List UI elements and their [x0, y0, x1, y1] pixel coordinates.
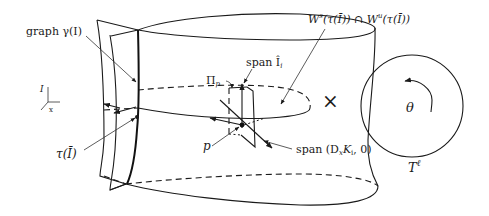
pi-p-pointer: [226, 81, 232, 88]
axis-indicator: I x: [39, 84, 60, 114]
plane-hidden-bottom: [229, 134, 241, 135]
pi-p-label: Πp: [206, 74, 221, 88]
point-p: [240, 123, 245, 128]
axis-x-label: x: [49, 106, 53, 114]
intersection-label: Ws(τ(Ī)) ∩ Wu(τ(Ī)): [308, 12, 410, 26]
cylinder-right-side: [368, 28, 378, 186]
span-D-label: span (DxKi, 0): [296, 143, 372, 157]
cylinder-bottom-rim-front: [126, 184, 378, 205]
span-I-label: span Îi: [246, 55, 282, 70]
tau-label: τ(Ī): [56, 146, 77, 161]
p-pointer: [212, 127, 239, 146]
plane-pi-p: [210, 84, 272, 148]
outer-sheet: [97, 20, 138, 184]
flow-arrow: [210, 118, 242, 125]
span-I-pointer: [244, 69, 252, 83]
plane-front-edge: [241, 87, 255, 147]
tau-pointer: [84, 118, 135, 150]
arrow-to-sheet: [114, 107, 136, 113]
middle-circle-front: [138, 108, 310, 119]
graph-label: graph γ(I): [26, 25, 82, 38]
theta-label: θ: [406, 100, 414, 115]
p-label: p: [203, 139, 211, 153]
torus-label: Tℓ: [408, 158, 421, 175]
graph-curve: [127, 30, 139, 184]
times-symbol: ×: [322, 89, 339, 113]
dynamics-diagram: graph γ(I) I x τ(Ī) Πp span Îi p: [0, 0, 489, 216]
axis-I-label: I: [39, 84, 44, 94]
graph-sheets: [97, 20, 139, 190]
outer-sheet-inner-edge: [110, 35, 126, 190]
cylinder-bottom-rim-back: [126, 174, 378, 186]
cylinder: [126, 14, 378, 205]
tau-point: [135, 115, 139, 119]
middle-circle-back: [138, 85, 310, 108]
torus-circle: θ Tℓ: [361, 55, 463, 175]
arrow-outer-sheet: [104, 104, 120, 108]
